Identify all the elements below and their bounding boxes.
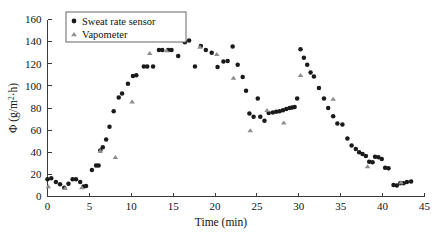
data-point-sweat-rate-sensor (104, 137, 109, 142)
x-tick-label: 10 (126, 200, 138, 212)
data-point-sweat-rate-sensor (204, 48, 209, 53)
x-tick-label: 0 (45, 200, 51, 212)
data-point-sweat-rate-sensor (386, 166, 391, 171)
data-point-sweat-rate-sensor (151, 64, 156, 69)
scatter-chart-figure: 051015202530354045 020406080100120140160… (0, 0, 442, 239)
data-point-sweat-rate-sensor (193, 64, 198, 69)
data-point-sweat-rate-sensor (364, 154, 369, 159)
data-point-sweat-rate-sensor (107, 125, 112, 130)
legend-label: Sweat rate sensor (82, 16, 156, 27)
data-point-sweat-rate-sensor (120, 91, 125, 96)
data-point-sweat-rate-sensor (247, 111, 252, 116)
data-point-sweat-rate-sensor (215, 65, 220, 70)
data-point-sweat-rate-sensor (96, 163, 101, 168)
x-axis-title: Time (min) (195, 216, 247, 229)
x-tick-label: 45 (419, 200, 431, 212)
data-point-sweat-rate-sensor (322, 96, 327, 101)
data-point-sweat-rate-sensor (187, 38, 192, 43)
data-point-sweat-rate-sensor (380, 157, 385, 162)
y-tick-label: 20 (31, 168, 43, 180)
data-point-sweat-rate-sensor (331, 114, 336, 119)
legend-label: Vapometer (82, 29, 128, 40)
x-tick-label: 15 (168, 200, 180, 212)
data-point-sweat-rate-sensor (308, 70, 313, 75)
data-point-sweat-rate-sensor (58, 182, 63, 187)
y-tick-label: 60 (31, 124, 43, 136)
data-point-sweat-rate-sensor (295, 96, 300, 101)
data-point-sweat-rate-sensor (90, 168, 95, 173)
data-point-sweat-rate-sensor (305, 63, 310, 68)
y-axis-title: Φ (g/m2·h) (7, 83, 21, 133)
data-point-sweat-rate-sensor (78, 180, 83, 185)
chart-canvas: 051015202530354045 020406080100120140160… (0, 0, 442, 239)
data-point-sweat-rate-sensor (354, 147, 359, 152)
data-point-sweat-rate-sensor (145, 64, 150, 69)
data-point-sweat-rate-sensor (134, 73, 139, 78)
data-point-sweat-rate-sensor (230, 44, 235, 49)
y-axis-title-tail: ·h) (7, 83, 20, 97)
x-tick-label: 35 (335, 200, 347, 212)
x-tick-label: 25 (251, 200, 263, 212)
data-point-sweat-rate-sensor (251, 115, 256, 120)
data-point-sweat-rate-sensor (54, 180, 59, 185)
data-point-sweat-rate-sensor (84, 184, 89, 189)
x-tick-label: 20 (210, 200, 222, 212)
y-axis-title-base: Φ (g/m (7, 100, 20, 133)
data-point-sweat-rate-sensor (298, 47, 303, 52)
y-tick-label: 160 (25, 13, 42, 25)
data-point-sweat-rate-sensor (111, 109, 116, 114)
legend-marker-circle (72, 19, 77, 24)
data-point-sweat-rate-sensor (126, 81, 130, 86)
data-point-sweat-rate-sensor (317, 86, 322, 91)
data-point-sweat-rate-sensor (160, 48, 165, 53)
data-point-sweat-rate-sensor (405, 180, 410, 185)
data-point-sweat-rate-sensor (116, 95, 121, 100)
data-point-sweat-rate-sensor (101, 145, 106, 150)
data-point-sweat-rate-sensor (244, 89, 249, 94)
data-point-sweat-rate-sensor (409, 179, 414, 184)
chart-legend: Sweat rate sensorVapometer (66, 12, 186, 42)
data-point-sweat-rate-sensor (256, 96, 261, 101)
data-point-sweat-rate-sensor (169, 48, 174, 53)
data-point-sweat-rate-sensor (312, 74, 317, 79)
data-point-sweat-rate-sensor (235, 63, 240, 68)
data-point-sweat-rate-sensor (262, 118, 267, 123)
data-point-sweat-rate-sensor (74, 177, 79, 182)
y-tick-label: 0 (36, 190, 42, 202)
data-point-sweat-rate-sensor (258, 115, 263, 120)
data-point-sweat-rate-sensor (221, 59, 226, 64)
data-point-sweat-rate-sensor (326, 106, 331, 111)
data-point-sweat-rate-sensor (225, 59, 230, 64)
data-point-sweat-rate-sensor (292, 105, 297, 110)
data-point-sweat-rate-sensor (66, 182, 71, 187)
data-point-sweat-rate-sensor (240, 75, 245, 80)
data-point-sweat-rate-sensor (340, 122, 345, 127)
data-point-sweat-rate-sensor (49, 176, 54, 181)
data-point-sweat-rate-sensor (345, 136, 350, 141)
y-tick-label: 80 (31, 102, 43, 114)
y-tick-label: 140 (25, 35, 42, 47)
data-point-sweat-rate-sensor (335, 121, 340, 126)
x-tick-label: 30 (293, 200, 305, 212)
data-point-sweat-rate-sensor (302, 55, 307, 60)
data-point-sweat-rate-sensor (209, 50, 214, 55)
y-tick-label: 40 (31, 146, 43, 158)
data-point-sweat-rate-sensor (176, 54, 181, 59)
data-point-sweat-rate-sensor (370, 160, 375, 165)
x-tick-label: 5 (87, 200, 93, 212)
y-tick-label: 100 (25, 80, 42, 92)
data-point-sweat-rate-sensor (349, 143, 354, 148)
y-tick-label: 120 (25, 58, 42, 70)
x-tick-label: 40 (377, 200, 389, 212)
